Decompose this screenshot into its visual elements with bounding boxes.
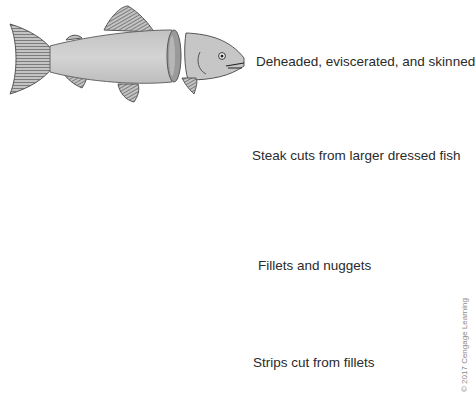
dressed-fish-illustration <box>10 6 244 102</box>
label-dressed: Deheaded, eviscerated, and skinned <box>256 54 475 69</box>
label-fillets: Fillets and nuggets <box>258 258 371 273</box>
label-steaks: Steak cuts from larger dressed fish <box>252 148 461 163</box>
label-strips: Strips cut from fillets <box>253 355 375 370</box>
copyright-credit: © 2017 Cengage Learning <box>460 298 469 392</box>
